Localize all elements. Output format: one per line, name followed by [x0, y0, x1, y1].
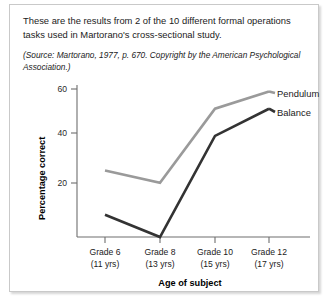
x-tick-label-grade-10: Grade 10	[197, 247, 233, 257]
series-leader-balance	[269, 109, 275, 112]
y-axis-title: Percentage correct	[37, 137, 47, 220]
series-label-pendulum: Pendulum	[277, 88, 319, 99]
x-axis-title: Age of subject	[158, 278, 221, 288]
y-tick-label-20: 20	[57, 178, 67, 188]
series-label-balance: Balance	[277, 107, 311, 118]
x-tick-sublabel-grade-10: (15 yrs)	[200, 259, 229, 269]
x-tick-sublabel-grade-8: (13 yrs)	[145, 259, 174, 269]
y-tick-label-40: 40	[57, 128, 67, 138]
series-line-balance	[105, 109, 269, 237]
series-leader-pendulum	[269, 91, 275, 93]
series-line-pendulum	[105, 91, 269, 182]
x-axis-ticks	[105, 237, 269, 243]
x-tick-sublabel-grade-12: (17 yrs)	[254, 259, 283, 269]
x-tick-label-grade-12: Grade 12	[251, 247, 287, 257]
caption-block: These are the results from 2 of the 10 d…	[23, 14, 307, 73]
figure-panel: These are the results from 2 of the 10 d…	[9, 4, 319, 292]
y-tick-label-60: 60	[57, 84, 67, 94]
x-tick-label-grade-6: Grade 6	[89, 247, 120, 257]
x-tick-sublabel-grade-6: (11 yrs)	[91, 259, 120, 269]
caption-source-text: (Source: Martorano, 1977, p. 670. Copyri…	[23, 50, 307, 73]
x-tick-label-grade-8: Grade 8	[144, 247, 175, 257]
y-axis-ticks	[71, 89, 77, 183]
caption-main-text: These are the results from 2 of the 10 d…	[23, 14, 307, 41]
